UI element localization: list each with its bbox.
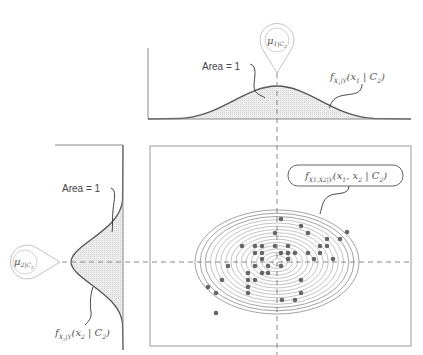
scatter-point [253, 251, 258, 256]
scatter-point [279, 251, 284, 256]
scatter-point [280, 298, 285, 303]
top-mean-marker: μ1|C2 [260, 23, 294, 73]
scatter-point [246, 285, 251, 290]
scatter-point [286, 244, 291, 249]
scatter-point [293, 298, 298, 303]
top-curve-label: fX1|Y(x1 | C2) [329, 71, 385, 86]
scatter-point [338, 237, 343, 242]
scatter-point [240, 244, 245, 249]
left-curve-label: fX2|Y(x2 | C2) [54, 327, 110, 342]
scatter-point [266, 264, 271, 269]
top-density-fill [148, 86, 411, 119]
left-marginal-panel: Area = 1 μ2|C2 fX2|Y(x2 | C2) [10, 145, 123, 350]
scatter-point [299, 224, 304, 229]
scatter-point [206, 285, 211, 290]
scatter-point [299, 278, 304, 283]
left-mean-marker: μ2|C2 [10, 245, 60, 279]
scatter-point [345, 230, 350, 235]
left-area-label: Area = 1 [62, 183, 101, 194]
scatter-point [253, 278, 258, 283]
scatter-point [253, 264, 258, 269]
scatter-point [220, 278, 225, 283]
diagram-canvas: Area = 1 μ1|C2 fX1|Y(x1 | C2) Area = 1 [0, 0, 423, 355]
scatter-point [293, 251, 298, 256]
scatter-point [246, 271, 251, 276]
scatter-point [260, 257, 265, 262]
scatter-point [318, 244, 323, 249]
scatter-point [266, 271, 271, 276]
scatter-point [279, 217, 284, 222]
scatter-point [331, 257, 336, 262]
scatter-point [312, 257, 317, 262]
scatter-point [286, 251, 291, 256]
top-marginal-panel: Area = 1 μ1|C2 fX1|Y(x1 | C2) [148, 23, 411, 119]
top-curve-leader [329, 84, 362, 108]
scatter-point [318, 251, 323, 256]
scatter-point [246, 278, 251, 283]
scatter-point [246, 291, 251, 296]
scatter-point [286, 257, 291, 262]
left-density-fill [71, 145, 123, 350]
scatter-point [214, 311, 219, 316]
scatter-point [299, 291, 304, 296]
scatter-point [226, 264, 231, 269]
scatter-point [260, 244, 265, 249]
scatter-point [253, 244, 258, 249]
scatter-point [325, 244, 330, 249]
scatter-point [260, 251, 265, 256]
top-area-label: Area = 1 [202, 61, 241, 72]
scatter-point [306, 251, 311, 256]
scatter-point [273, 231, 278, 236]
scatter-point [306, 231, 311, 236]
scatter-point [214, 291, 219, 296]
scatter-point [279, 264, 284, 269]
left-curve-leader [85, 287, 93, 325]
scatter-point [260, 271, 265, 276]
scatter-point [325, 237, 330, 242]
